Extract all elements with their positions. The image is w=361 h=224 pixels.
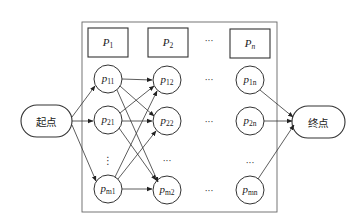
ellipsis-col-1: ⋮ — [103, 155, 113, 166]
node-pmn: pmn — [242, 183, 257, 197]
ellipsis-row-2: ··· — [205, 117, 214, 127]
ellipsis-row-1: ··· — [205, 75, 214, 85]
node-pm2: pm2 — [159, 183, 174, 197]
stage-label-pn: Pn — [245, 37, 255, 51]
node-p22: p22 — [161, 114, 174, 128]
node-pm1: pm1 — [100, 182, 115, 196]
ellipsis-header: ··· — [205, 36, 214, 46]
node-circles — [94, 65, 264, 204]
ellipsis-col-n: ··· — [246, 158, 255, 168]
node-p2n: p2n — [244, 114, 257, 128]
ellipsis-col-2: ··· — [163, 156, 172, 166]
end-node-label: 终点 — [308, 115, 328, 130]
node-p11: p11 — [102, 72, 115, 86]
node-p12: p12 — [161, 73, 174, 87]
node-p1n: p1n — [244, 73, 257, 87]
diagram-canvas — [0, 0, 361, 224]
ellipsis-row-m: ··· — [205, 186, 214, 196]
start-node-label: 起点 — [36, 114, 56, 129]
stage-label-p1: P1 — [103, 36, 113, 50]
node-p21: p21 — [102, 113, 115, 127]
stage-label-p2: P2 — [163, 36, 173, 50]
